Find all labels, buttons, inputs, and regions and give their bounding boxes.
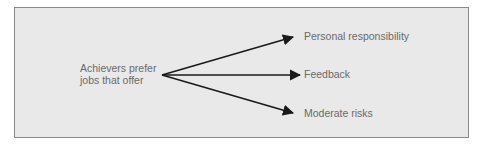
arrows bbox=[0, 0, 484, 150]
target-label-personal-responsibility: Personal responsibility bbox=[304, 30, 409, 42]
target-label-moderate-risks: Moderate risks bbox=[304, 107, 373, 119]
arrow-moderate-risks bbox=[162, 75, 293, 113]
target-label-feedback: Feedback bbox=[304, 68, 350, 80]
arrow-personal-responsibility bbox=[162, 37, 293, 75]
